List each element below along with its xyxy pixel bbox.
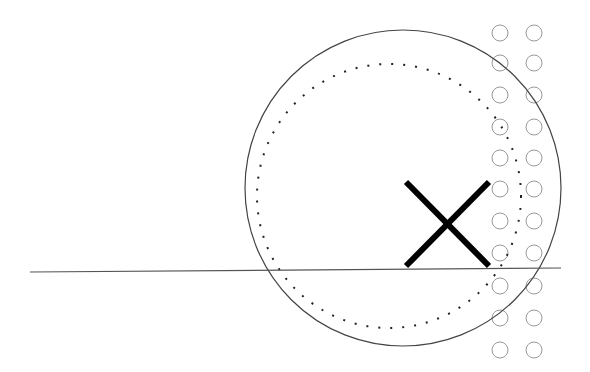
small-circle xyxy=(526,150,542,166)
dotted-circle xyxy=(257,64,521,328)
small-circle xyxy=(492,342,508,358)
horizontal-line xyxy=(30,268,561,272)
small-circle xyxy=(492,25,508,41)
small-circle xyxy=(526,181,542,197)
small-circle xyxy=(526,55,542,71)
small-circle xyxy=(492,150,508,166)
small-circle xyxy=(526,245,542,261)
small-circle xyxy=(492,245,508,261)
small-circle-grid xyxy=(492,25,542,358)
small-circle xyxy=(526,213,542,229)
large-circle xyxy=(245,30,561,346)
small-circle xyxy=(492,213,508,229)
small-circle xyxy=(492,181,508,197)
small-circle xyxy=(492,87,508,103)
x-mark-icon xyxy=(406,182,489,266)
small-circle xyxy=(492,119,508,135)
small-circle xyxy=(526,310,542,326)
small-circle xyxy=(526,25,542,41)
small-circle xyxy=(526,278,542,294)
small-circle xyxy=(526,119,542,135)
small-circle xyxy=(526,342,542,358)
diagram-canvas xyxy=(0,0,590,372)
small-circle xyxy=(492,278,508,294)
